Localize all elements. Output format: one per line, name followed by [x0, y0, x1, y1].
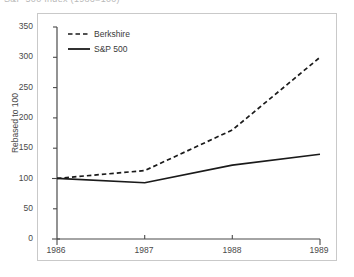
x-tick-1988: 1988: [223, 246, 242, 255]
y-tick-50: 50: [7, 204, 33, 213]
chart-title-strip: S&P 500 Index (1986=100): [0, 0, 354, 11]
x-tick-1989: 1989: [310, 246, 329, 255]
y-axis-title: Rebased to 100: [10, 80, 20, 166]
line-chart-plot: Berkshire S&P 500: [38, 14, 336, 260]
x-axis-tick-labels: 1986 1987 1988 1989: [0, 246, 354, 260]
x-axis-ticks: [57, 235, 320, 245]
series-line-sp500: [57, 154, 320, 183]
legend-label-sp500: S&P 500: [94, 44, 128, 54]
y-tick-0: 0: [7, 234, 33, 243]
y-tick-100: 100: [7, 174, 33, 183]
y-axis-ticks: [52, 27, 60, 239]
legend-label-berkshire: Berkshire: [94, 29, 130, 39]
chart-legend: Berkshire S&P 500: [68, 29, 130, 54]
y-tick-350: 350: [7, 22, 33, 31]
x-tick-1986: 1986: [47, 246, 66, 255]
y-tick-300: 300: [7, 52, 33, 61]
chart-frame: Berkshire S&P 500: [37, 13, 337, 261]
series-line-berkshire: [57, 57, 320, 178]
x-tick-1987: 1987: [135, 246, 154, 255]
